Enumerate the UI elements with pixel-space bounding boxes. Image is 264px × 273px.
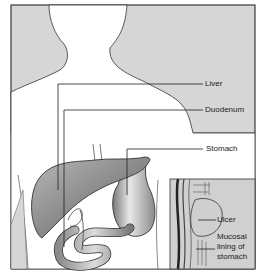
label-liver: Liver bbox=[205, 79, 222, 88]
label-ulcer: Ulcer bbox=[217, 215, 236, 224]
label-mucosal-line1: Mucosal bbox=[217, 232, 247, 241]
diagram-frame bbox=[10, 5, 255, 269]
label-duodenum: Duodenum bbox=[205, 105, 244, 114]
label-mucosal-line2: lining of bbox=[217, 242, 245, 251]
label-mucosal-line3: stomach bbox=[217, 252, 247, 261]
label-stomach: Stomach bbox=[206, 144, 238, 153]
